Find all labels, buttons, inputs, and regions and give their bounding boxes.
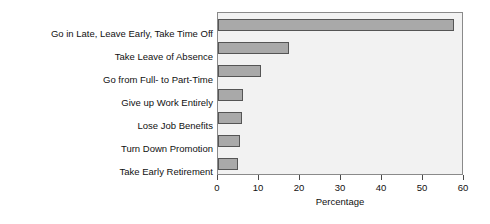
bar xyxy=(218,135,240,147)
category-axis-labels: Go in Late, Leave Early, Take Time Off T… xyxy=(0,12,213,175)
bar-chart: Go in Late, Leave Early, Take Time Off T… xyxy=(0,0,490,224)
category-label-2: Go from Full- to Part-Time xyxy=(0,75,213,85)
x-tick-mark xyxy=(217,175,218,180)
category-label-3: Give up Work Entirely xyxy=(0,98,213,108)
x-tick-label: 0 xyxy=(214,182,219,193)
x-tick-mark xyxy=(299,175,300,180)
bar xyxy=(218,158,238,170)
x-tick-mark xyxy=(422,175,423,180)
category-label-0: Go in Late, Leave Early, Take Time Off xyxy=(0,29,213,39)
category-label-1: Take Leave of Absence xyxy=(0,52,213,62)
x-tick-label: 40 xyxy=(376,182,387,193)
x-tick-label: 10 xyxy=(253,182,264,193)
x-axis-title: Percentage xyxy=(217,196,463,207)
x-tick-label: 50 xyxy=(417,182,428,193)
category-label-6: Take Early Retirement xyxy=(0,167,213,177)
bar xyxy=(218,19,454,31)
x-tick-mark xyxy=(463,175,464,180)
x-tick-mark xyxy=(381,175,382,180)
category-label-4: Lose Job Benefits xyxy=(0,121,213,131)
x-tick-label: 60 xyxy=(458,182,469,193)
x-tick-mark xyxy=(340,175,341,180)
plot-area xyxy=(217,12,463,175)
bar xyxy=(218,65,261,77)
category-label-5: Turn Down Promotion xyxy=(0,144,213,154)
x-tick-label: 20 xyxy=(294,182,305,193)
x-tick-label: 30 xyxy=(335,182,346,193)
bar xyxy=(218,42,289,54)
bars-layer xyxy=(218,13,462,174)
bar xyxy=(218,89,243,101)
bar xyxy=(218,112,242,124)
x-tick-mark xyxy=(258,175,259,180)
